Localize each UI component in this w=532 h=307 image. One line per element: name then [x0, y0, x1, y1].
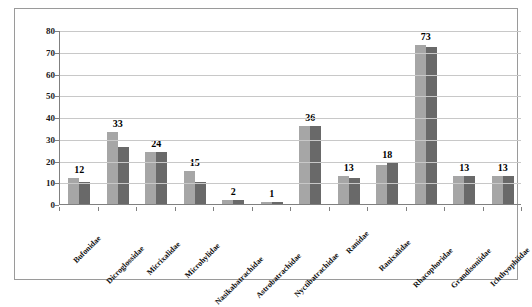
bar-1: [145, 152, 156, 204]
bar-2: [503, 176, 514, 204]
x-label-ranixalidae: Ranixalidae: [377, 238, 412, 273]
x-tick-mark: [367, 207, 368, 211]
bar-2: [272, 202, 283, 204]
bar-1: [261, 202, 272, 204]
data-label: 13: [473, 162, 532, 173]
gridline-50: [60, 96, 521, 97]
gridline-70: [60, 53, 521, 54]
x-label-ranidae: Ranidae: [344, 229, 370, 255]
x-axis-category-labels: BufonidaeDicroglossidaeMicrixalidaeMicro…: [59, 207, 521, 287]
bar-1: [184, 171, 195, 204]
x-tick-mark: [290, 207, 291, 211]
bar-1: [338, 176, 349, 204]
x-label-dicroglossidae: Dicroglossidae: [104, 244, 145, 285]
x-tick-mark: [213, 207, 214, 211]
gridline-80: [60, 31, 521, 32]
bar-2: [118, 147, 129, 204]
y-tick-label-40: 40: [29, 113, 55, 123]
x-tick-mark: [483, 207, 484, 211]
bar-2: [464, 176, 475, 204]
x-tick-mark: [406, 207, 407, 211]
x-tick-mark: [136, 207, 137, 211]
gridline-40: [60, 118, 521, 119]
bar-2: [233, 200, 244, 204]
x-tick-mark: [59, 207, 60, 211]
x-label-ichthyophiidae: Ichthyophiidae: [488, 245, 531, 288]
x-tick-mark: [175, 207, 176, 211]
x-tick-mark: [444, 207, 445, 211]
bar-1: [68, 178, 79, 204]
y-tick-label-30: 30: [29, 135, 55, 145]
chart-frame: 01020304050607080 1233241521361318731313…: [14, 8, 518, 280]
y-axis-tick-labels: 01020304050607080: [29, 31, 55, 205]
y-tick-label-70: 70: [29, 48, 55, 58]
y-tick-label-10: 10: [29, 178, 55, 188]
bar-2: [426, 47, 437, 204]
x-tick-mark: [329, 207, 330, 211]
bar-2: [349, 178, 360, 204]
x-label-grandisoniidae: Grandisoniidae: [449, 246, 493, 290]
bar-1: [222, 200, 233, 204]
gridline-30: [60, 140, 521, 141]
y-tick-mark: [55, 205, 59, 206]
x-tick-mark: [98, 207, 99, 211]
bar-1: [492, 176, 503, 204]
x-tick-mark: [252, 207, 253, 211]
y-tick-label-0: 0: [29, 200, 55, 210]
x-label-bufonidae: Bufonidae: [72, 234, 103, 265]
bar-2: [79, 182, 90, 204]
gridline-10: [60, 183, 521, 184]
x-tick-mark: [521, 207, 522, 211]
bar-1: [376, 165, 387, 204]
x-label-microhylidae: Microhylidae: [183, 241, 222, 280]
plot-area: 1233241521361318731313: [59, 31, 521, 205]
y-tick-label-80: 80: [29, 26, 55, 36]
x-label-nasikabatrachidae: Nasikabatrachidae: [214, 255, 266, 307]
bar-1: [107, 132, 118, 204]
bar-1: [415, 45, 426, 204]
gridline-20: [60, 162, 521, 163]
bar-1: [299, 126, 310, 204]
y-tick-label-60: 60: [29, 70, 55, 80]
x-label-micrixalidae: Micrixalidae: [145, 240, 182, 277]
y-tick-label-50: 50: [29, 91, 55, 101]
gridline-60: [60, 75, 521, 76]
bar-1: [453, 176, 464, 204]
